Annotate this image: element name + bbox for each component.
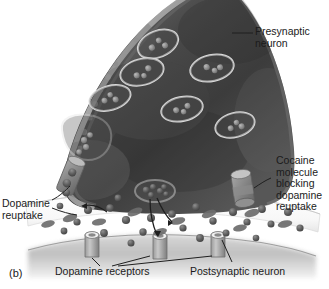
dopamine-receptor — [153, 233, 167, 259]
label-dopamine-reuptake: Dopamine reuptake — [2, 198, 50, 221]
label-dopamine-receptors: Dopamine receptors — [55, 266, 150, 278]
fusing-vesicle — [135, 180, 175, 202]
dopamine-receptor — [85, 232, 99, 257]
label-cocaine-molecule: Cocaine molecule blocking dopamine reupt… — [276, 155, 322, 213]
label-presynaptic-neuron: Presynaptic neuron — [255, 26, 310, 49]
figure-panel-label: (b) — [9, 268, 22, 280]
dopamine-receptor — [211, 232, 225, 257]
label-postsynaptic-neuron: Postsynaptic neuron — [190, 266, 285, 278]
synapse-illustration: Presynaptic neuron Cocaine molecule bloc… — [0, 0, 329, 289]
